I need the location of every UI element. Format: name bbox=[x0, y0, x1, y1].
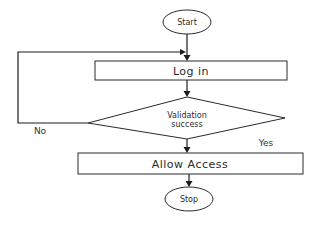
flowchart-diagram: Start Log in Validation success No Yes A… bbox=[0, 0, 316, 229]
validation-label-line2: success bbox=[171, 120, 202, 129]
arrowhead-icon bbox=[184, 55, 191, 61]
edge-login-to-validation bbox=[184, 80, 191, 97]
stop-label: Stop bbox=[180, 195, 198, 204]
arrowhead-icon bbox=[180, 49, 186, 55]
edge-label-no: No bbox=[34, 126, 47, 136]
stop-node: Stop bbox=[165, 187, 213, 211]
start-node: Start bbox=[163, 10, 211, 34]
validation-decision-node: Validation success bbox=[88, 97, 285, 139]
edge-allow-to-stop bbox=[186, 174, 193, 187]
arrowhead-icon bbox=[184, 147, 191, 153]
allow-access-node: Allow Access bbox=[78, 153, 303, 174]
validation-label-line1: Validation bbox=[167, 111, 207, 120]
arrowhead-icon bbox=[186, 181, 193, 187]
edge-start-to-login bbox=[184, 34, 191, 61]
login-label: Log in bbox=[173, 65, 209, 78]
edge-label-yes: Yes bbox=[258, 138, 274, 148]
login-node: Log in bbox=[95, 61, 287, 80]
allow-access-label: Allow Access bbox=[152, 158, 229, 171]
arrowhead-icon bbox=[184, 91, 191, 97]
edge-validation-to-allow bbox=[184, 139, 191, 153]
start-label: Start bbox=[177, 18, 197, 27]
